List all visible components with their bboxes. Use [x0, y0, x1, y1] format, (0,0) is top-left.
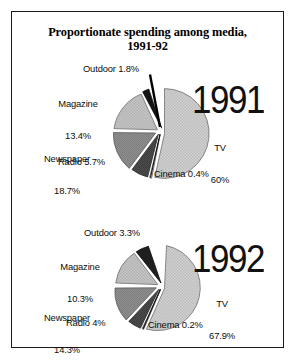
- pie-1992-label-tv: TV 67.9%: [196, 278, 248, 361]
- pie-1992-label-cinema: Cinema 0.2%: [148, 320, 203, 331]
- pie-1992-label-outdoor: Outdoor 3.3%: [62, 228, 162, 239]
- pie-1992-label-newspaper-value: 14.3%: [27, 345, 107, 356]
- figure-page: Proportionate spending among media, 1991…: [0, 0, 296, 361]
- pie-1992-label-magazine-name: Magazine: [44, 262, 116, 273]
- pie-1992-label-tv-name: TV: [196, 299, 248, 310]
- pie-1992-year-label: 1992: [192, 236, 264, 281]
- pie-1992-label-tv-value: 67.9%: [196, 331, 248, 342]
- pie-1992-label-radio: Radio 4%: [66, 318, 105, 329]
